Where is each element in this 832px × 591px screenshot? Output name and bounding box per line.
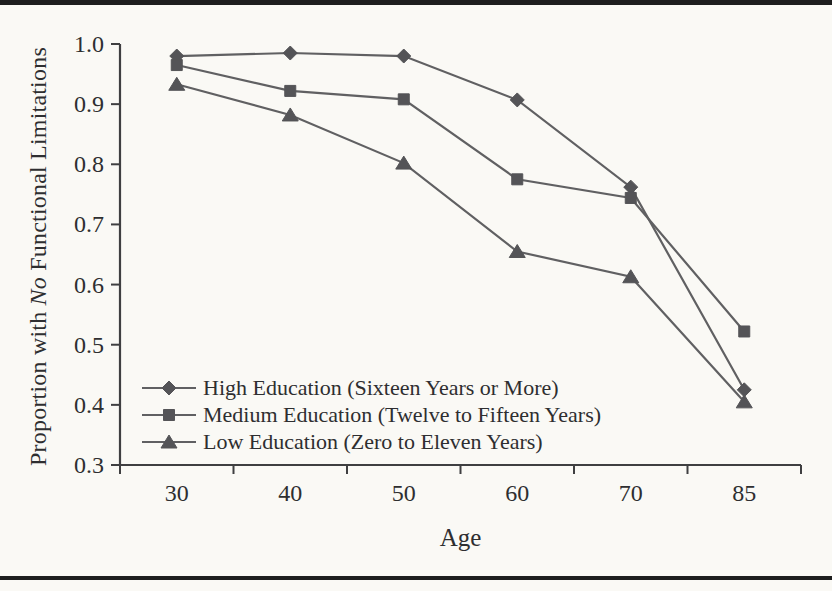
y-axis-tick-label: 0.6: [74, 272, 104, 298]
x-axis-title: Age: [120, 524, 801, 552]
series-line-square: [177, 65, 745, 331]
square-marker-icon: [141, 406, 197, 424]
legend-item-high-education: High Education (Sixteen Years or More): [141, 375, 601, 401]
legend-item-low-education: Low Education (Zero to Eleven Years): [141, 429, 601, 455]
diamond-data-marker: [397, 49, 411, 63]
x-axis-tick-label: 40: [278, 480, 302, 506]
triangle-marker-icon: [141, 433, 197, 451]
y-axis-tick-label: 0.8: [74, 151, 104, 177]
figure-bottom-rule: [0, 576, 832, 580]
legend-label: Low Education (Zero to Eleven Years): [203, 429, 543, 455]
square-data-marker: [398, 94, 409, 105]
legend-label: Medium Education (Twelve to Fifteen Year…: [203, 402, 601, 428]
x-axis-tick-label: 60: [505, 480, 529, 506]
triangle-data-marker: [169, 77, 185, 90]
legend-item-medium-education: Medium Education (Twelve to Fifteen Year…: [141, 402, 601, 428]
diamond-marker: [162, 381, 176, 395]
x-axis-tick-label: 85: [732, 480, 756, 506]
diamond-legend-glyph: [141, 379, 197, 397]
series-line-triangle: [177, 84, 745, 402]
triangle-data-marker: [396, 156, 412, 169]
y-axis-tick-label: 0.7: [74, 211, 104, 237]
square-legend-glyph: [141, 406, 197, 424]
square-data-marker: [625, 192, 636, 203]
y-axis-tick-label: 0.9: [74, 91, 104, 117]
y-axis-tick-label: 1.0: [74, 31, 104, 57]
diamond-data-marker: [283, 46, 297, 60]
x-axis-tick-label: 70: [619, 480, 643, 506]
series-line-diamond: [177, 53, 745, 390]
square-marker: [164, 410, 175, 421]
square-data-marker: [171, 60, 182, 71]
square-data-marker: [285, 85, 296, 96]
y-axis-tick-label: 0.4: [74, 392, 104, 418]
chart-legend: High Education (Sixteen Years or More) M…: [141, 375, 601, 455]
x-axis-tick-label: 30: [165, 480, 189, 506]
legend-label: High Education (Sixteen Years or More): [203, 375, 559, 401]
square-data-marker: [739, 326, 750, 337]
y-axis-tick-label: 0.5: [74, 332, 104, 358]
x-axis-tick-label: 50: [392, 480, 416, 506]
diamond-marker-icon: [141, 379, 197, 397]
line-chart-plot-area: 1.00.90.80.70.60.50.40.3304050607085: [0, 0, 832, 591]
triangle-legend-glyph: [141, 433, 197, 451]
y-axis-tick-label: 0.3: [74, 452, 104, 478]
book-figure-page: Proportion with No Functional Limitation…: [0, 0, 832, 591]
square-data-marker: [512, 174, 523, 185]
